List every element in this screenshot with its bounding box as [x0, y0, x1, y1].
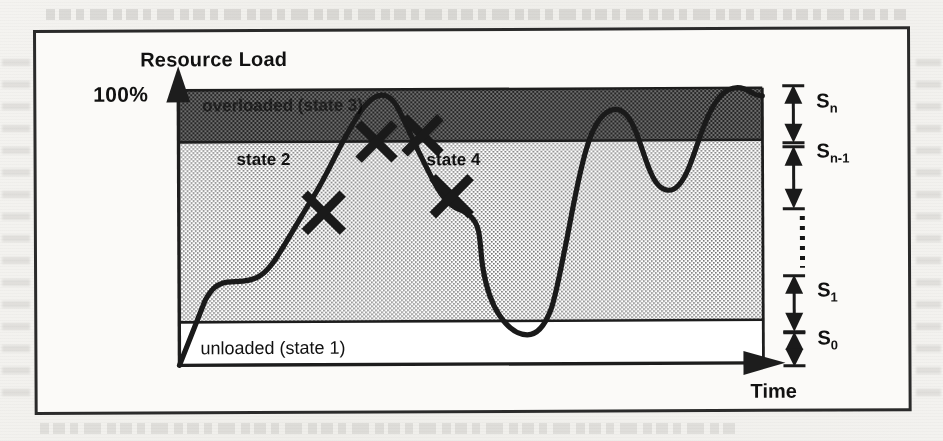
chart-svg: [36, 29, 915, 418]
threshold-label-sn-sub: n: [830, 100, 838, 115]
threshold-label-s1-base: S: [817, 279, 830, 301]
bleed-through-text-left: [2, 46, 30, 396]
threshold-bracket-sn-1: [783, 146, 805, 209]
threshold-label-s1-sub: 1: [830, 289, 837, 304]
threshold-label-s0-sub: 0: [831, 337, 838, 352]
x-axis-label: Time: [751, 380, 797, 403]
figure-frame: Resource Load 100% Time overloaded (stat…: [33, 26, 912, 415]
threshold-label-sn-base: S: [816, 90, 829, 112]
y-axis-top-tick-label: 100%: [93, 82, 148, 106]
threshold-label-sn: Sn: [816, 89, 837, 115]
threshold-bracket-s1: [783, 275, 805, 332]
threshold-label-sn-1-base: S: [816, 140, 829, 162]
band-label-overloaded: overloaded (state 3): [202, 96, 363, 117]
threshold-label-sn-1-sub: n-1: [830, 150, 850, 165]
bleed-through-text-bottom: [40, 423, 740, 434]
threshold-label-s1: S1: [817, 278, 838, 304]
threshold-label-s0: S0: [817, 326, 838, 352]
plot-right-edge: [762, 88, 763, 363]
bleed-through-text-right: [916, 46, 941, 396]
threshold-bracket-sn: [782, 85, 804, 143]
threshold-bracket-s0: [783, 332, 805, 367]
band-label-unloaded: unloaded (state 1): [200, 338, 345, 360]
threshold-label-sn-1: Sn-1: [816, 139, 849, 165]
chart-plot-area: Resource Load 100% Time overloaded (stat…: [36, 29, 915, 418]
threshold-label-s0-base: S: [817, 327, 830, 349]
bleed-through-text-top: [46, 9, 906, 20]
state-label-2: state 2: [237, 150, 291, 170]
threshold-ellipsis-icon: [800, 216, 805, 268]
y-axis-arrow-icon: [166, 66, 190, 102]
y-axis-label: Resource Load: [140, 48, 287, 72]
state-label-4: state 4: [427, 150, 481, 170]
